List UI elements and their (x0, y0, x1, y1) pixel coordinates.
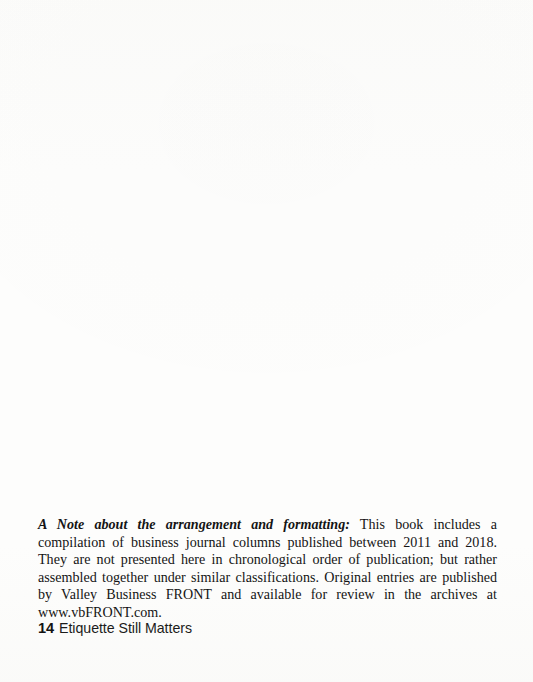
book-page: A Note about the arrangement and formatt… (0, 0, 533, 682)
running-title: Etiquette Still Matters (59, 620, 192, 636)
page-footer: 14 Etiquette Still Matters (38, 620, 192, 636)
note-block: A Note about the arrangement and formatt… (38, 516, 497, 622)
note-paragraph: A Note about the arrangement and formatt… (38, 516, 497, 622)
note-lead-in: A Note about the arrangement and formatt… (38, 516, 350, 532)
page-number: 14 (38, 620, 54, 636)
